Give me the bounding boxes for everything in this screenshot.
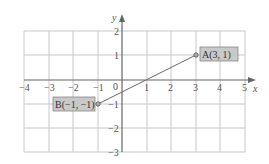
y-tick: 1 — [114, 50, 119, 61]
y-tick: 2 — [114, 26, 119, 37]
x-tick: 5 — [242, 82, 247, 93]
x-tick: 4 — [217, 82, 222, 93]
point-a-label: A(3, 1) — [202, 49, 231, 61]
x-tick: −4 — [19, 82, 30, 93]
x-axis-label: x — [252, 83, 258, 94]
y-axis-arrow-icon — [119, 14, 125, 22]
x-tick: 1 — [144, 82, 149, 93]
x-tick: 3 — [193, 82, 198, 93]
y-tick: −2 — [108, 123, 119, 134]
origin-label: 0 — [113, 81, 118, 92]
y-tick: −1 — [108, 99, 119, 110]
x-tick: −1 — [93, 82, 104, 93]
x-tick: −3 — [44, 82, 55, 93]
x-tick: 2 — [168, 82, 173, 93]
y-axis-label: y — [111, 12, 117, 23]
coordinate-plane: x y −4 −3 −2 −1 0 1 2 3 4 5 2 1 −1 −2 −3… — [0, 0, 269, 164]
point-b-marker — [96, 102, 100, 106]
point-b-label: B(−1, −1) — [55, 99, 95, 111]
x-tick: −2 — [68, 82, 79, 93]
y-tick: −3 — [108, 147, 119, 158]
point-a-marker — [194, 53, 198, 57]
